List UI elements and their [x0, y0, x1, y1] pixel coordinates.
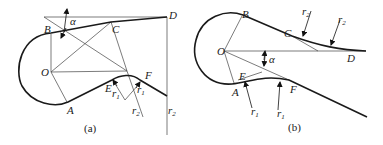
caption-b: (b)	[288, 121, 301, 134]
label-e: E	[104, 82, 112, 94]
label-b: B	[44, 23, 51, 35]
label-a: A	[231, 86, 239, 98]
label-r1-right: r1	[277, 107, 285, 121]
label-alpha: α	[269, 53, 275, 65]
line-o-a	[224, 51, 234, 83]
label-c: C	[284, 27, 292, 39]
label-c: C	[112, 23, 120, 35]
label-o: O	[217, 45, 225, 57]
label-o: O	[41, 66, 49, 78]
label-alpha: α	[70, 15, 76, 27]
panel-a: B C D O E F A α r1 r1 r2 r2 (a)	[19, 9, 177, 135]
label-f: F	[144, 69, 152, 81]
line-o-a	[51, 72, 67, 102]
label-e: E	[238, 70, 246, 82]
caption-a: (a)	[84, 122, 97, 135]
cam-profile-b	[195, 13, 367, 117]
label-b: B	[242, 8, 249, 20]
label-r1-left: r1	[251, 105, 259, 119]
diagram-canvas: B C D O E F A α r1 r1 r2 r2 (a) B	[0, 0, 383, 145]
label-r1-right: r1	[137, 83, 145, 97]
line-o-center	[51, 71, 127, 72]
label-f: F	[289, 83, 297, 95]
line-o-c	[51, 22, 111, 72]
panel-b: B C D O E F A α r1 r1 r2 r2 (b)	[195, 5, 367, 134]
label-d: D	[168, 9, 177, 21]
line-o-b	[224, 16, 242, 51]
r1-arrow-left-icon	[113, 80, 117, 86]
label-r2-left: r2	[302, 5, 310, 19]
line-o-f	[224, 51, 289, 80]
label-a: A	[66, 104, 74, 116]
r1-arrow-right-icon	[278, 82, 280, 110]
label-r2-right: r2	[168, 104, 176, 118]
label-d: D	[346, 52, 355, 64]
label-r2-right: r2	[338, 13, 346, 27]
